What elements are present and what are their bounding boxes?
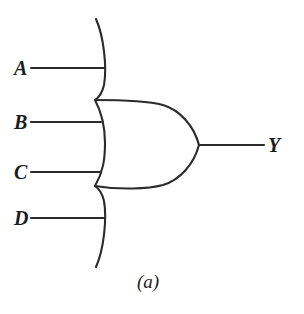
input-label-c: C bbox=[14, 162, 27, 182]
or-gate-drawing bbox=[0, 0, 304, 314]
gate-outline bbox=[95, 100, 199, 189]
left-edge-upper-tail bbox=[95, 19, 105, 100]
output-label-y: Y bbox=[268, 135, 280, 155]
left-edge-lower-tail bbox=[95, 186, 105, 267]
gate-body bbox=[95, 100, 199, 189]
input-label-b: B bbox=[14, 112, 27, 132]
gate-left-edge bbox=[95, 19, 105, 267]
left-edge-gate-back bbox=[95, 100, 105, 186]
input-label-a: A bbox=[14, 58, 27, 78]
figure-caption: (a) bbox=[137, 272, 159, 291]
input-label-d: D bbox=[14, 208, 28, 228]
figure-canvas: A B C D Y (a) bbox=[0, 0, 304, 314]
input-wires bbox=[31, 68, 104, 218]
